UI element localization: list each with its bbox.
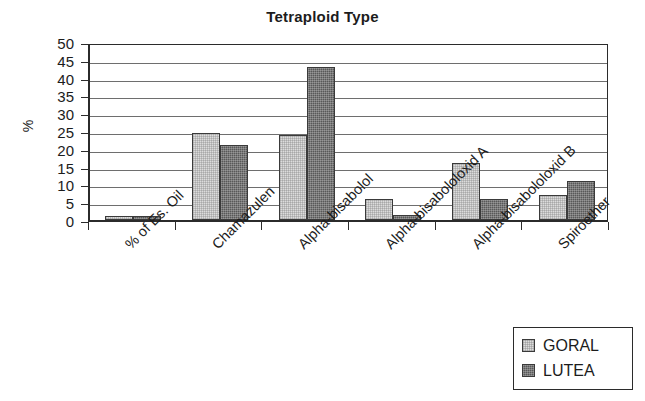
chart-title: Tetraploid Type — [0, 8, 645, 25]
y-axis-tick-mark — [81, 222, 88, 223]
y-axis-tick-label: 50 — [40, 36, 74, 51]
bar-chart: Tetraploid Type % 05101520253035404550 %… — [0, 0, 645, 401]
x-axis-tick-mark — [608, 222, 609, 230]
x-axis-tick-mark — [521, 222, 522, 230]
gridline — [90, 116, 607, 117]
y-axis-title: % — [20, 120, 36, 132]
legend-label-goral: GORAL — [543, 338, 599, 354]
y-axis-tick-mark — [81, 133, 88, 134]
y-axis-tick-mark — [81, 97, 88, 98]
gridline — [90, 152, 607, 153]
gridline — [90, 98, 607, 99]
legend-item-lutea: LUTEA — [522, 358, 624, 383]
y-axis-tick-mark — [81, 44, 88, 45]
y-axis-tick-mark — [81, 80, 88, 81]
chart-legend: GORAL LUTEA — [513, 327, 633, 390]
y-axis-tick-label: 0 — [40, 214, 74, 229]
y-axis-tick-mark — [81, 204, 88, 205]
y-axis-tick-label: 30 — [40, 107, 74, 122]
x-axis-tick-mark — [175, 222, 176, 230]
bar-goral-1 — [192, 133, 220, 220]
bar-goral-5 — [539, 195, 567, 220]
bar-goral-0 — [105, 216, 133, 220]
y-axis-tick-mark — [81, 62, 88, 63]
y-axis-tick-label: 15 — [40, 161, 74, 176]
x-axis-tick-mark — [348, 222, 349, 230]
gridline — [90, 134, 607, 135]
x-axis-tick-mark — [261, 222, 262, 230]
y-axis-tick-mark — [81, 151, 88, 152]
x-axis-tick-mark — [88, 222, 89, 230]
y-axis-tick-label: 25 — [40, 125, 74, 140]
legend-label-lutea: LUTEA — [543, 363, 595, 379]
x-axis-tick-mark — [435, 222, 436, 230]
y-axis-tick-label: 45 — [40, 54, 74, 69]
legend-swatch-goral-icon — [522, 339, 535, 352]
y-axis-tick-mark — [81, 115, 88, 116]
gridline — [90, 81, 607, 82]
y-axis-tick-label: 35 — [40, 89, 74, 104]
y-axis-tick-mark — [81, 169, 88, 170]
y-axis-tick-label: 20 — [40, 143, 74, 158]
legend-item-goral: GORAL — [522, 333, 624, 358]
gridline — [90, 170, 607, 171]
legend-swatch-lutea-icon — [522, 364, 535, 377]
y-axis-tick-label: 40 — [40, 72, 74, 87]
bar-lutea-2 — [307, 67, 335, 220]
bar-goral-2 — [279, 135, 307, 220]
y-axis-tick-label: 10 — [40, 178, 74, 193]
gridline — [90, 63, 607, 64]
bar-goral-3 — [365, 199, 393, 220]
y-axis-tick-label: 5 — [40, 196, 74, 211]
y-axis-tick-mark — [81, 186, 88, 187]
